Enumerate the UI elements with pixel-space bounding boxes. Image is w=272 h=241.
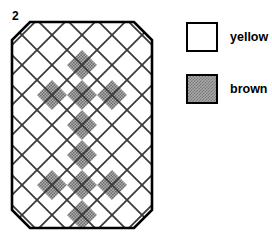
legend: yellow brown — [186, 22, 270, 126]
white-square-swatch — [186, 22, 218, 52]
legend-item-yellow: yellow — [186, 22, 270, 52]
legend-label-brown: brown — [230, 82, 268, 96]
legend-item-brown: brown — [186, 74, 270, 104]
quilt-diagram — [10, 20, 154, 230]
textured-square-swatch — [186, 74, 218, 104]
quilt-svg-canvas — [10, 20, 154, 230]
legend-label-yellow: yellow — [230, 30, 268, 44]
